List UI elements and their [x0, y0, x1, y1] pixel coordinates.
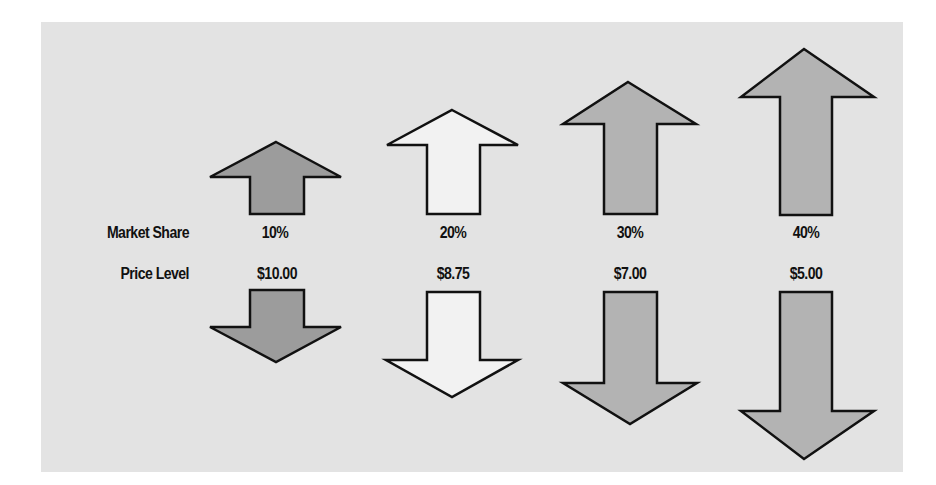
market-share-value: 40%: [762, 224, 850, 242]
price-level-value: $5.00: [762, 265, 850, 283]
market-share-up-arrow-1: [210, 142, 341, 214]
price-down-arrow-4: [741, 292, 874, 459]
market-share-up-arrow-2: [387, 110, 518, 214]
market-share-value: 30%: [586, 224, 674, 242]
arrows-layer: [0, 0, 936, 485]
price-level-value: $8.75: [409, 265, 497, 283]
price-level-value: $10.00: [233, 265, 321, 283]
price-level-row-label: Price Level: [48, 265, 189, 283]
market-share-value: 20%: [409, 224, 497, 242]
market-share-value: 10%: [231, 224, 319, 242]
market-share-up-arrow-3: [563, 82, 696, 214]
price-down-arrow-1: [210, 290, 341, 362]
price-down-arrow-3: [563, 292, 697, 424]
price-down-arrow-2: [386, 292, 518, 397]
market-share-row-label: Market Share: [48, 224, 189, 242]
price-level-value: $7.00: [586, 265, 674, 283]
market-share-up-arrow-4: [741, 49, 874, 215]
